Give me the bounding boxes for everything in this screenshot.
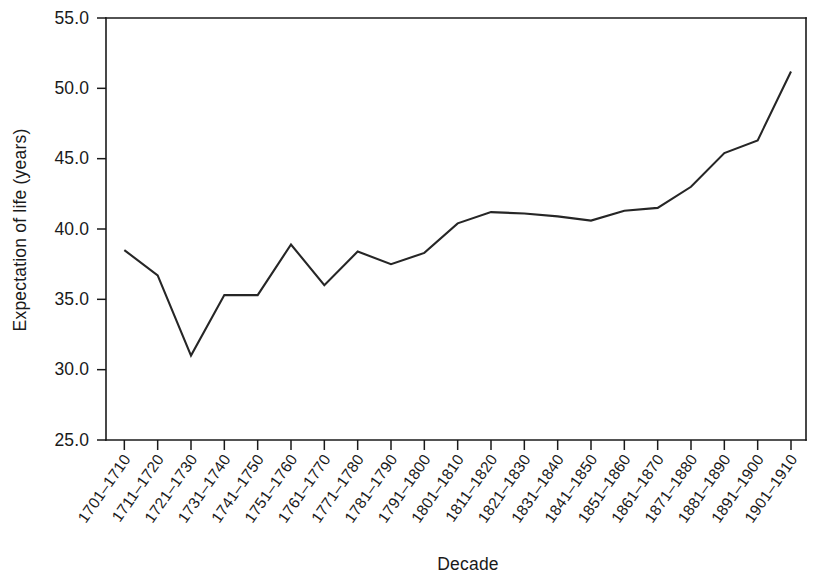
y-tick-label: 55.0 bbox=[55, 8, 90, 28]
y-tick-label: 35.0 bbox=[55, 289, 90, 309]
chart-figure: 25.030.035.040.045.050.055.0 1701–171017… bbox=[0, 0, 834, 587]
x-axis-title: Decade bbox=[437, 554, 499, 574]
y-tick-label: 45.0 bbox=[55, 148, 90, 168]
line-chart: 25.030.035.040.045.050.055.0 1701–171017… bbox=[0, 0, 834, 587]
y-tick-label: 40.0 bbox=[55, 219, 90, 239]
y-axis-title: Expectation of life (years) bbox=[10, 129, 30, 332]
y-tick-label: 25.0 bbox=[55, 430, 90, 450]
y-tick-label: 30.0 bbox=[55, 359, 90, 379]
y-tick-label: 50.0 bbox=[55, 78, 90, 98]
